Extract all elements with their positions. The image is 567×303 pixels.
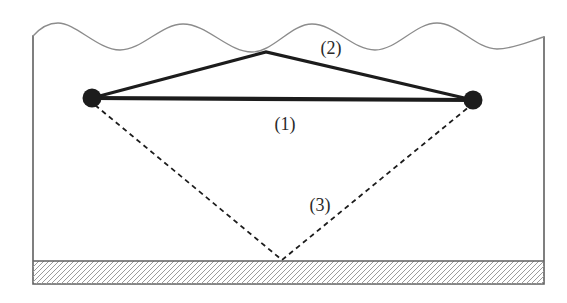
direct-path-label: (1) xyxy=(275,114,296,135)
seabed-hatch xyxy=(33,261,544,284)
diagram-svg: (2) (1) (3) xyxy=(0,0,567,303)
direct-path-line xyxy=(92,98,473,100)
multipath-propagation-diagram: (2) (1) (3) xyxy=(0,0,567,303)
water-surface-wave xyxy=(33,23,544,52)
channel-frame xyxy=(33,36,544,284)
bottom-path-label: (3) xyxy=(310,195,331,216)
surface-path-label: (2) xyxy=(321,38,342,59)
left-endpoint-dot xyxy=(83,89,102,108)
surface-reflected-path xyxy=(92,52,473,100)
right-endpoint-dot xyxy=(464,91,483,110)
